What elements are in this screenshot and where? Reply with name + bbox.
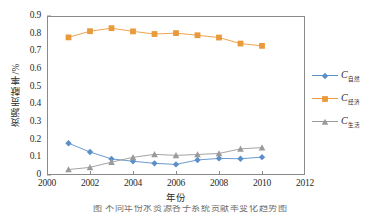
x-tick-label: 2002 xyxy=(81,179,99,189)
chart-figure: 资源贡献率/% 00.10.20.30.40.50.60.70.80.9 200… xyxy=(0,0,380,213)
x-tick-label: 2008 xyxy=(210,179,228,189)
x-tick-label: 2000 xyxy=(38,179,56,189)
caption-sliver-text: 图 不同年份水资源各子系统贡献率变化趋势图 xyxy=(0,205,380,213)
legend-label: C自然 xyxy=(338,69,360,83)
y-tick-label: 0.1 xyxy=(30,153,41,163)
x-tick-mark xyxy=(262,171,263,175)
series-1 xyxy=(66,25,265,48)
x-tick-mark xyxy=(133,171,134,175)
y-tick-label: 0.4 xyxy=(30,100,41,110)
data-point-marker xyxy=(194,157,200,163)
y-tick-label: 0.9 xyxy=(30,11,41,21)
legend-item-0[interactable]: C自然 xyxy=(312,64,380,87)
data-point-marker xyxy=(173,30,179,36)
series-0 xyxy=(65,140,265,168)
data-point-marker xyxy=(238,41,244,47)
legend-marker-diamond-icon xyxy=(321,72,329,80)
legend-label: C经济 xyxy=(338,92,360,106)
data-point-marker xyxy=(322,96,328,102)
x-tick-label: 2006 xyxy=(167,179,185,189)
data-point-marker xyxy=(152,31,158,37)
data-point-marker xyxy=(237,156,243,162)
data-point-marker xyxy=(66,34,72,40)
x-tick-mark xyxy=(176,171,177,175)
caption-sliver: 图 不同年份水资源各子系统贡献率变化趋势图 xyxy=(0,205,380,213)
data-point-marker xyxy=(322,118,329,124)
legend-swatch xyxy=(312,70,338,82)
x-tick-label: 2012 xyxy=(296,179,314,189)
y-tick-label: 0.5 xyxy=(30,82,41,92)
data-point-marker xyxy=(216,35,222,41)
series-line xyxy=(69,28,263,46)
data-point-marker xyxy=(151,160,157,166)
data-point-marker xyxy=(65,140,71,146)
data-point-marker xyxy=(322,72,328,78)
data-point-marker xyxy=(109,25,115,31)
legend-marker-square-icon xyxy=(321,95,329,103)
legend-label: C生活 xyxy=(338,115,360,129)
x-tick-mark xyxy=(219,171,220,175)
series-layer xyxy=(47,16,305,175)
y-tick-label: 0.6 xyxy=(30,64,41,74)
legend-marker-triangle-icon xyxy=(321,118,329,126)
x-axis-title: 年份 xyxy=(47,190,305,204)
legend-item-1[interactable]: C经济 xyxy=(312,87,380,110)
data-point-marker xyxy=(195,32,201,38)
chart-legend: C自然C经济C生活 xyxy=(312,64,380,133)
y-tick-label: 0.2 xyxy=(30,135,41,145)
x-tick-mark xyxy=(90,171,91,175)
data-point-marker xyxy=(87,149,93,155)
x-tick-label: 2010 xyxy=(253,179,271,189)
y-tick-label: 0.3 xyxy=(30,117,41,127)
y-tick-label: 0.7 xyxy=(30,47,41,57)
y-tick-label: 0.8 xyxy=(30,29,41,39)
y-axis-tick-group: 00.10.20.30.40.50.60.70.80.9 xyxy=(0,16,47,175)
x-tick-label: 2004 xyxy=(124,179,142,189)
data-point-marker xyxy=(87,28,93,34)
x-axis-tick-group: 2000200220042006200820102012 xyxy=(47,175,305,191)
data-point-marker xyxy=(130,28,136,34)
legend-swatch xyxy=(312,116,338,128)
data-point-marker xyxy=(173,161,179,167)
data-point-marker xyxy=(259,154,265,160)
data-point-marker xyxy=(259,43,265,49)
legend-swatch xyxy=(312,93,338,105)
series-line xyxy=(69,143,263,164)
legend-item-2[interactable]: C生活 xyxy=(312,110,380,133)
